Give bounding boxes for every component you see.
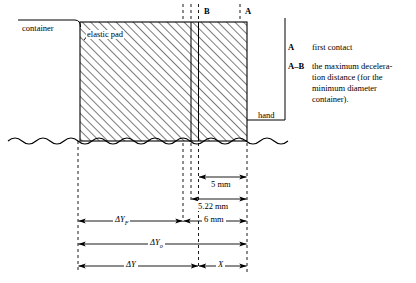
delta-y-main: ΔY: [126, 259, 136, 269]
dimension-label-delta-yo: ΔYo: [148, 237, 165, 249]
legend-text-a-line-0: first contact: [312, 42, 352, 52]
legend-text-ab-line-0: the maximum decelera-: [312, 61, 392, 71]
hand-leader-line: [247, 18, 285, 120]
point-b-label: B: [204, 7, 210, 16]
hand-label: hand: [258, 111, 275, 120]
dimension-label-x: X: [216, 259, 225, 269]
dimension-label-5mm: 5 mm: [209, 179, 233, 189]
impact-deceleration-diagram: container elastic pad hand B A A first c…: [0, 0, 416, 283]
elastic-pad-label: elastic pad: [86, 30, 124, 39]
point-a-label: A: [245, 7, 251, 16]
diagram-canvas: [0, 0, 416, 283]
legend-key-a: A: [288, 42, 294, 52]
top-dashed-reference-lines: [183, 4, 240, 22]
dimension-label-5-22mm: 5.22 mm: [196, 201, 230, 211]
delta-yo-main: ΔY: [150, 237, 160, 247]
dimension-label-6mm: 6 mm: [202, 214, 226, 224]
delta-yf-sub: F: [125, 220, 129, 226]
elastic-pad-block: [80, 22, 247, 141]
dimension-label-delta-y: ΔY: [124, 259, 138, 269]
legend-key-ab: A–B: [288, 61, 304, 71]
dimension-label-delta-yf: ΔYF: [113, 214, 130, 226]
legend-text-ab-line-2: minimum diameter: [312, 83, 377, 93]
delta-yo-sub-o: o: [160, 243, 163, 249]
delta-yf-main: ΔY: [115, 214, 125, 224]
container-label: container: [22, 24, 54, 33]
legend-text-ab-line-1: tion distance (for the: [312, 72, 383, 82]
legend-text-ab-line-3: container).: [312, 94, 349, 104]
